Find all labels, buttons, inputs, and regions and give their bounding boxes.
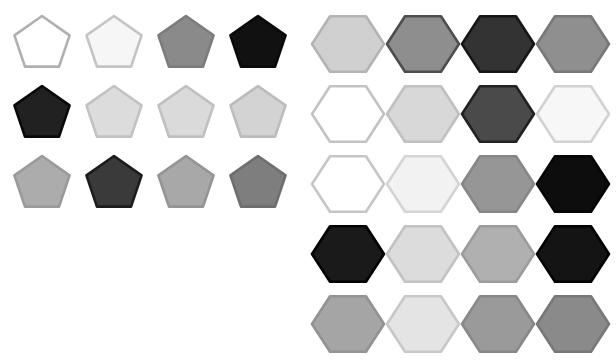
pentagon-r3c3[interactable] (158, 156, 213, 207)
hexagon-r5c3[interactable] (462, 296, 534, 351)
pentagon-r3c4[interactable] (230, 156, 285, 207)
pentagon-r1c1[interactable] (14, 16, 69, 67)
pentagon-r3c1[interactable] (14, 156, 69, 207)
pentagon-r2c4[interactable] (230, 86, 285, 137)
hexagon-r1c4[interactable] (537, 16, 609, 71)
hexagon-r5c2[interactable] (387, 296, 459, 351)
hexagon-r3c3[interactable] (462, 156, 534, 211)
hexagon-r3c2[interactable] (387, 156, 459, 211)
pentagon-r2c2[interactable] (86, 86, 141, 137)
hexagon-r1c1[interactable] (312, 16, 384, 71)
hexagon-r2c4[interactable] (537, 86, 609, 141)
pentagon-r1c4[interactable] (230, 16, 285, 67)
pentagon-r1c3[interactable] (158, 16, 213, 67)
hexagon-r4c1[interactable] (312, 226, 384, 281)
hexagon-r4c2[interactable] (387, 226, 459, 281)
shape-canvas (0, 0, 616, 362)
hexagon-r4c3[interactable] (462, 226, 534, 281)
hexagon-r5c4[interactable] (537, 296, 609, 351)
pentagon-r1c2[interactable] (86, 16, 141, 67)
hexagon-r5c1[interactable] (312, 296, 384, 351)
pentagon-r3c2[interactable] (86, 156, 141, 207)
hexagon-r2c2[interactable] (387, 86, 459, 141)
hexagon-r2c3[interactable] (462, 86, 534, 141)
pentagon-r2c3[interactable] (158, 86, 213, 137)
pentagon-r2c1[interactable] (14, 86, 69, 137)
hexagon-r1c3[interactable] (462, 16, 534, 71)
hexagon-r1c2[interactable] (387, 16, 459, 71)
hexagon-r4c4[interactable] (537, 226, 609, 281)
hexagon-r2c1[interactable] (312, 86, 384, 141)
hexagon-r3c4[interactable] (537, 156, 609, 211)
hexagon-r3c1[interactable] (312, 156, 384, 211)
